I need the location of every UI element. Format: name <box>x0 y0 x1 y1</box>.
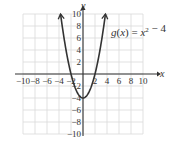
y-tick-label: −6 <box>71 105 81 115</box>
x-axis-label: x <box>159 68 165 79</box>
y-tick-label: 2 <box>77 57 82 67</box>
parabola-chart: −10−8−6−4−2246810108642−2−4−6−8−10 x y g… <box>0 0 175 150</box>
x-tick-label: 6 <box>117 76 122 86</box>
x-tick-label: 4 <box>105 76 110 86</box>
x-tick-label: −8 <box>30 76 40 86</box>
y-axis-label: y <box>80 0 86 11</box>
y-tick-label: 8 <box>77 21 82 31</box>
x-tick-label: −10 <box>16 76 31 86</box>
x-tick-label: −6 <box>42 76 52 86</box>
y-tick-label: −8 <box>71 117 81 127</box>
x-tick-label: −4 <box>54 76 64 86</box>
y-tick-label: −10 <box>67 129 82 139</box>
y-tick-label: 4 <box>77 45 82 55</box>
x-tick-label: 10 <box>139 76 149 86</box>
y-tick-label: 6 <box>77 33 82 43</box>
x-tick-label: 8 <box>129 76 134 86</box>
y-tick-label: −4 <box>71 93 81 103</box>
axes <box>15 5 161 136</box>
